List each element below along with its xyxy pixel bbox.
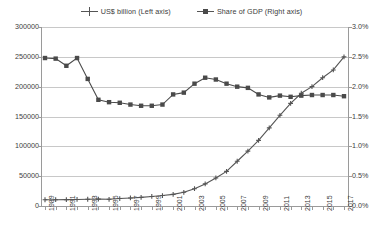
plus-marker-icon [81,7,98,16]
bottom-axis-tick-mark [344,207,345,210]
bottom-axis-tick-mark [77,207,78,210]
square-marker-icon [197,7,214,16]
data-point-marker [75,56,79,60]
bottom-axis-tick-mark [120,207,121,210]
data-point-marker [64,64,68,68]
data-point-marker [128,196,133,201]
bottom-axis-tick-mark [216,207,217,210]
right-axis-tick-label: 3.0% [352,22,368,31]
right-axis-tick-mark [349,117,352,118]
plot-area [41,27,348,206]
data-point-marker [214,77,218,81]
data-point-marker [288,95,292,99]
legend-label-usd-billion: US$ billion (Left axis) [101,7,171,16]
data-point-marker [149,194,154,199]
left-axis-tick-label: 250000 [15,52,39,61]
bottom-axis-tick-label: 2017 [347,195,354,211]
data-point-marker [53,56,57,60]
bottom-axis-tick-mark [269,207,270,210]
data-point-marker [278,93,282,97]
data-point-marker [43,197,48,202]
data-point-marker [160,102,164,106]
right-axis-tick-label: 2.0% [352,82,368,91]
bottom-axis-tick-mark [162,207,163,210]
data-point-marker [53,197,58,202]
data-point-marker [85,197,90,202]
right-axis-tick-mark [349,87,352,88]
bottom-axis-tick-mark [280,207,281,210]
left-axis-tick-label: 150000 [15,112,39,121]
bottom-axis-tick-mark [248,207,249,210]
bottom-axis-tick-mark [152,207,153,210]
data-point-marker [224,81,228,85]
chart-legend: US$ billion (Left axis) Share of GDP (Ri… [0,4,383,18]
data-point-marker [128,102,132,106]
right-axis-tick-mark [349,146,352,147]
bottom-axis-tick-mark [88,207,89,210]
data-point-marker [150,104,154,108]
data-point-marker [160,193,165,198]
data-point-marker [182,90,186,94]
data-point-marker [43,56,47,60]
data-point-marker [75,197,80,202]
legend-item-share-of-gdp: Share of GDP (Right axis) [197,7,302,16]
bottom-axis-tick-mark [312,207,313,210]
data-point-marker [64,197,69,202]
left-axis-tick-label: 200000 [15,82,39,91]
data-point-marker [192,186,197,191]
bottom-axis-tick-mark [323,207,324,210]
bottom-axis-tick-mark [173,207,174,210]
bottom-axis-tick-mark [184,207,185,210]
chart-container: US$ billion (Left axis) Share of GDP (Ri… [0,0,383,234]
data-point-marker [342,94,346,98]
data-point-marker [96,98,100,102]
right-axis-tick-mark [349,27,352,28]
data-point-marker [96,197,101,202]
data-point-marker [192,81,196,85]
right-axis-tick-mark [349,57,352,58]
data-point-marker [117,196,122,201]
data-point-marker [107,197,112,202]
bottom-axis-tick-mark [291,207,292,210]
legend-item-usd-billion: US$ billion (Left axis) [81,7,171,16]
data-point-marker [139,195,144,200]
data-point-marker [171,92,175,96]
left-axis-tick-label: 300000 [15,22,39,31]
left-axis-tick-label: 100000 [15,141,39,150]
right-axis-tick-label: 1.0% [352,141,368,150]
bottom-axis-tick-mark [333,207,334,210]
series-layer [41,27,348,206]
data-point-marker [235,84,239,88]
legend-label-share-of-gdp: Share of GDP (Right axis) [217,7,302,16]
bottom-axis-tick-mark [227,207,228,210]
bottom-axis-tick-mark [301,207,302,210]
data-point-marker [86,77,90,81]
bottom-axis-tick-mark [141,207,142,210]
bottom-axis-tick-mark [237,207,238,210]
data-point-marker [203,76,207,80]
data-point-marker [256,92,260,96]
data-point-marker [181,190,186,195]
bottom-axis-tick-mark [130,207,131,210]
data-point-marker [139,104,143,108]
right-axis-tick-label: 0.5% [352,171,368,180]
bottom-axis-tick-mark [195,207,196,210]
bottom-axis-tick-mark [98,207,99,210]
bottom-axis-tick-mark [45,207,46,210]
data-point-marker [171,192,176,197]
data-point-marker [107,100,111,104]
data-point-marker [331,93,335,97]
data-point-marker [118,101,122,105]
data-point-marker [310,93,314,97]
bottom-axis-tick-mark [205,207,206,210]
left-axis-tick-label: 50000 [19,171,39,180]
data-point-marker [320,93,324,97]
bottom-axis-tick-mark [56,207,57,210]
bottom-axis-tick-mark [259,207,260,210]
bottom-axis-tick-mark [66,207,67,210]
data-point-marker [267,95,271,99]
data-point-marker [213,176,218,181]
right-axis-tick-label: 0.0% [352,201,368,210]
right-axis-tick-label: 2.5% [352,52,368,61]
data-point-marker [299,93,303,97]
